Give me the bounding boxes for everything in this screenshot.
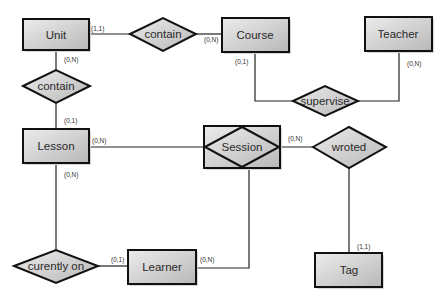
relationship-label: curently on (28, 260, 84, 272)
cardinality-course-supervise: (0,1) (235, 58, 248, 66)
cardinality-teacher-supervise: (0,N) (407, 60, 421, 68)
entity-lesson[interactable]: Lesson (23, 129, 91, 165)
cardinality-unit-contain-left: (0,N) (64, 56, 78, 64)
cardinality-tag-wroted: (1,1) (357, 243, 370, 251)
cardinality-learner-session: (0,N) (200, 256, 214, 264)
entity-label: Lesson (37, 140, 74, 152)
relationship-contain-top[interactable]: contain (130, 18, 196, 51)
cardinality-unit-contain: (1,1) (91, 25, 104, 33)
relationship-supervise[interactable]: supervise (293, 86, 358, 116)
er-diagram: Unit Course Teacher Lesson Session Learn… (0, 0, 445, 306)
entity-label: Learner (142, 261, 182, 273)
entity-label: Teacher (378, 28, 419, 40)
relationship-label: wroted (331, 141, 367, 153)
relationship-contain-left[interactable]: contain (23, 70, 90, 103)
entity-teacher[interactable]: Teacher (365, 17, 434, 53)
cardinality-lesson-session: (0,N) (92, 137, 106, 145)
entity-tag[interactable]: Tag (315, 253, 384, 289)
entity-label: Session (222, 141, 263, 153)
cardinality-session-wroted: (0,N) (288, 135, 302, 143)
entity-learner[interactable]: Learner (128, 250, 198, 286)
cardinality-lesson-contain: (0,1) (64, 117, 77, 125)
relationship-wroted[interactable]: wroted (313, 127, 386, 168)
entity-unit[interactable]: Unit (23, 19, 91, 52)
entity-label: Unit (46, 29, 67, 41)
cardinality-learner-curently-on: (0,1) (111, 256, 124, 264)
cardinality-lesson-curently-on: (0,N) (64, 171, 78, 179)
relationship-label: contain (144, 28, 181, 40)
entity-course[interactable]: Course (222, 18, 291, 54)
entity-session[interactable]: Session (204, 126, 282, 170)
relationship-label: supervise (300, 95, 349, 107)
entity-label: Tag (340, 264, 359, 276)
entity-label: Course (236, 29, 273, 41)
cardinality-course-contain: (0,N) (204, 36, 218, 44)
relationship-curently-on[interactable]: curently on (14, 250, 98, 283)
relationship-label: contain (37, 80, 74, 92)
